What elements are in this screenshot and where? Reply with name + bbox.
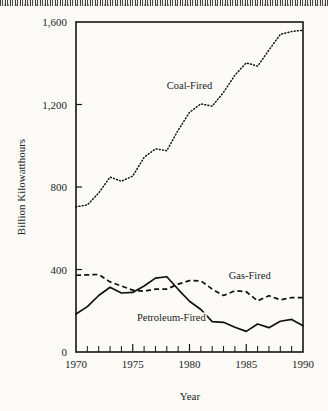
series-label-coal-fired: Coal-Fired [167,80,213,91]
x-tick-label-1975: 1975 [122,358,145,370]
x-tick-label-1990: 1990 [292,358,315,370]
x-tick-label-1970: 1970 [65,358,88,370]
x-tick-label-1980: 1980 [179,358,202,370]
x-tick-label-1985: 1985 [235,358,258,370]
series-labels: Coal-FiredCoal-FiredGas-FiredGas-FiredPe… [137,80,271,323]
series-line-coal-fired [76,30,303,207]
figure-page: 04008001,2001,600 19701975198019851990 B… [0,0,328,411]
y-axis-title: Billion Kilowatthours [15,139,27,235]
y-tick-label-1200: 1,200 [42,99,67,111]
y-tick-label-400: 400 [51,264,68,276]
y-tick-label-800: 800 [51,181,68,193]
y-tick-label-1600: 1,600 [42,16,67,28]
y-tick-label-0: 0 [62,346,68,358]
line-chart: 04008001,2001,600 19701975198019851990 B… [0,0,328,411]
series-label-gas-fired: Gas-Fired [229,270,272,281]
series-label-petroleum-fired: Petroleum-Fired [137,312,207,323]
x-axis: 19701975198019851990 [65,344,315,370]
plot-frame [76,22,303,352]
x-axis-title: Year [180,390,201,402]
